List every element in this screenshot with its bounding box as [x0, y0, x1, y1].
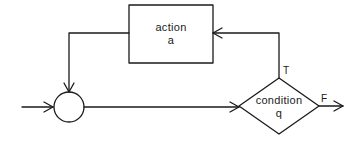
true-label: T	[283, 65, 289, 76]
false-label: F	[321, 93, 327, 104]
condition-label-line1: condition	[239, 94, 319, 107]
condition-label: condition q	[239, 94, 319, 120]
action-label-line1: action	[129, 21, 213, 34]
true-branch-line	[213, 33, 279, 78]
condition-label-line2: q	[239, 107, 319, 120]
junction-circle	[54, 92, 84, 122]
action-label: action a	[129, 21, 213, 47]
feedback-line	[69, 33, 129, 92]
action-label-line2: a	[129, 34, 213, 47]
